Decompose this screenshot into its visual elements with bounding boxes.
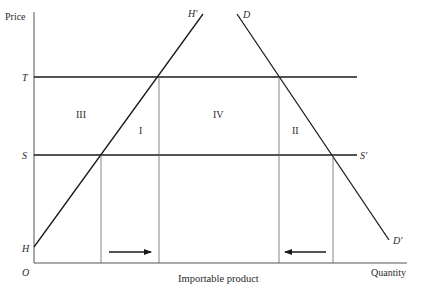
region-iv-label: IV — [213, 109, 224, 120]
tariff-price-label: T — [22, 72, 29, 83]
x-caption: Importable product — [178, 273, 259, 284]
region-ii-label: II — [292, 125, 299, 136]
region-i-label: I — [139, 125, 142, 136]
origin-label: O — [22, 267, 29, 278]
world-price-end-label: S' — [360, 150, 368, 161]
tariff-diagram: Price Quantity O Importable product T S … — [0, 0, 421, 292]
supply-start-label: H — [21, 243, 30, 254]
world-price-label: S — [22, 150, 27, 161]
supply-end-label: H' — [187, 8, 198, 19]
demand-end-label: D' — [392, 235, 403, 246]
demand-curve — [237, 14, 389, 240]
y-axis-label: Price — [5, 11, 26, 22]
x-axis-label: Quantity — [371, 267, 406, 278]
region-iii-label: III — [76, 109, 86, 120]
supply-curve — [34, 14, 203, 247]
demand-start-label: D — [242, 9, 251, 20]
